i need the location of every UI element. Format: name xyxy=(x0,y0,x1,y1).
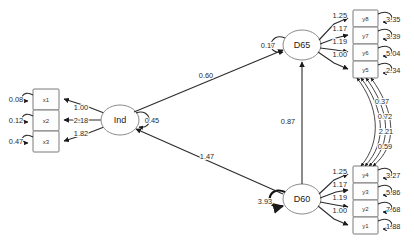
node-label-y7: y7 xyxy=(362,33,369,39)
path-value-ind-to-d65: 0.60 xyxy=(199,71,213,80)
residual-value-x3: 0.47 xyxy=(9,137,23,146)
residual-value-x2: 0.12 xyxy=(9,116,23,125)
node-label-y6: y6 xyxy=(362,50,369,56)
path-value-d60-to-ind: 1.47 xyxy=(200,152,214,161)
loading-value-x3: 1.82 xyxy=(74,129,88,138)
covariance-value-1: 0.37 xyxy=(375,97,389,106)
covariance-value-4: 0.59 xyxy=(378,142,392,151)
residual-value-y3: 5.86 xyxy=(386,188,400,197)
loading-value-x1: 1.00 xyxy=(74,103,88,112)
residual-value-y8: 3.35 xyxy=(386,15,400,24)
residual-value-y6: 5.04 xyxy=(386,49,400,58)
covariance-arc-1 xyxy=(357,78,375,166)
loading-value-y6: 1.19 xyxy=(333,37,347,46)
loading-value-y2: 1.19 xyxy=(333,193,347,202)
node-label-y1: y1 xyxy=(362,223,369,229)
sem-path-diagram: x1 x2 x3 0.08 0.12 0.47 1.00 2.18 1.82 I… xyxy=(0,0,414,244)
loading-value-y5: 1.00 xyxy=(333,50,347,59)
path-d60-to-ind xyxy=(136,129,283,194)
latent-node-ind-group: Ind 0.45 xyxy=(101,105,159,135)
latent-label-ind: Ind xyxy=(114,115,127,125)
residual-value-y5: 2.34 xyxy=(386,66,400,75)
residual-loop-x3 xyxy=(22,135,33,143)
covariance-value-3: 2.21 xyxy=(379,127,393,136)
loading-value-y3: 1.17 xyxy=(333,180,347,189)
latent-label-d60: D60 xyxy=(294,194,311,204)
covariance-arc-2 xyxy=(361,78,380,166)
variance-value-d65: 0.17 xyxy=(261,41,275,50)
residual-value-y7: 3.39 xyxy=(386,32,400,41)
latent-node-d60-group: D60 3.93 xyxy=(258,184,321,214)
residual-loop-x2 xyxy=(22,114,33,122)
loading-value-y1: 1.00 xyxy=(333,206,347,215)
loading-value-y7: 1.17 xyxy=(333,24,347,33)
residual-value-x1: 0.08 xyxy=(9,95,23,104)
residual-value-y1: 1.88 xyxy=(386,222,400,231)
loading-value-x2: 2.18 xyxy=(74,116,88,125)
path-ind-to-d65 xyxy=(134,50,283,112)
residual-value-y2: 7.68 xyxy=(386,205,400,214)
x-indicator-group: x1 x2 x3 0.08 0.12 0.47 1.00 2.18 1.82 xyxy=(9,89,104,152)
covariance-value-2: 0.72 xyxy=(378,112,392,121)
loading-value-y8: 1.25 xyxy=(333,11,347,20)
diagram-canvas: x1 x2 x3 0.08 0.12 0.47 1.00 2.18 1.82 I… xyxy=(0,0,414,244)
node-label-y2: y2 xyxy=(362,206,369,212)
residual-loop-x1 xyxy=(22,93,33,101)
node-label-y4: y4 xyxy=(362,172,369,178)
variance-value-d60: 3.93 xyxy=(258,197,272,206)
node-label-x1: x1 xyxy=(43,97,50,103)
path-value-d60-to-d65: 0.87 xyxy=(281,117,295,126)
node-label-x3: x3 xyxy=(43,139,50,145)
covariance-arc-3 xyxy=(366,78,386,166)
node-label-x2: x2 xyxy=(43,118,50,124)
node-label-y5: y5 xyxy=(362,67,369,73)
residual-value-y4: 3.27 xyxy=(386,171,400,180)
node-label-y8: y8 xyxy=(362,16,369,22)
residual-covariance-group: 0.37 0.72 2.21 0.59 xyxy=(357,78,393,166)
node-label-y3: y3 xyxy=(362,189,369,195)
y-lower-indicator-group: y4 y3 y2 y1 1.25 1.17 1.19 1.00 3.27 5.8… xyxy=(318,166,400,234)
y-upper-indicator-group: y8 y7 y6 y5 1.25 1.17 1.19 1.00 3.35 3.3… xyxy=(318,10,400,78)
covariance-arc-4 xyxy=(371,78,391,166)
loading-value-y4: 1.25 xyxy=(333,167,347,176)
latent-label-d65: D65 xyxy=(294,40,311,50)
variance-value-ind: 0.45 xyxy=(145,116,159,125)
